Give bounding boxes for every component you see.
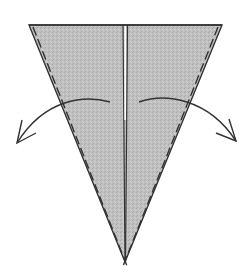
- origami-diagram: Kite/triangle shape with center crease; …: [0, 0, 246, 277]
- diagram-canvas: [0, 0, 246, 277]
